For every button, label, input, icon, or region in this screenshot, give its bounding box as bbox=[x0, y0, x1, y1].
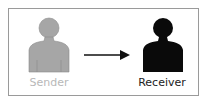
arrow-icon bbox=[82, 48, 132, 62]
sender-label: Sender bbox=[19, 76, 79, 89]
receiver-person-icon bbox=[141, 16, 185, 74]
receiver-label: Receiver bbox=[132, 76, 192, 89]
sender-person-icon bbox=[28, 16, 72, 74]
